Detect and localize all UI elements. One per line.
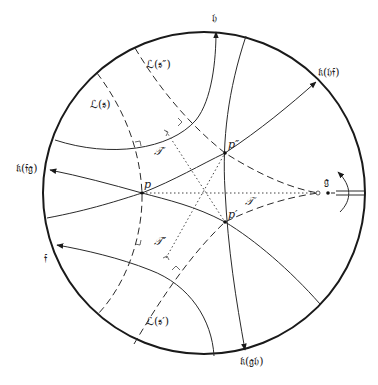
geodesic-k-fg xyxy=(50,170,320,304)
dotted-T2 xyxy=(166,153,225,258)
label-p: p xyxy=(144,178,151,191)
geodesic-k-hf xyxy=(47,82,316,218)
label-p2: p″ xyxy=(228,138,240,151)
label-g: 𝔤 xyxy=(324,175,329,188)
point-open xyxy=(316,191,320,195)
point-p xyxy=(140,191,144,195)
point-p2 xyxy=(223,151,227,155)
point-g xyxy=(326,191,330,195)
label-k-fg: 𝔨(𝔣𝔤) xyxy=(16,162,38,175)
right-angle-marker xyxy=(172,266,180,270)
hyperbolic-disk-figure: 𝔥 𝔨(𝔥𝔣) 𝔨(𝔣𝔤) 𝔣 𝔨(𝔤𝔥) 𝔤 ℒ(𝔰) ℒ(𝔰″) ℒ(𝔰′)… xyxy=(0,0,378,385)
label-T1: 𝒯′ xyxy=(154,145,166,158)
label-T: 𝒯 xyxy=(245,195,257,208)
rotation-arrow-icon xyxy=(338,172,349,212)
label-L-s: ℒ(𝔰) xyxy=(90,98,111,111)
label-h: 𝔥 xyxy=(212,12,217,25)
point-p1 xyxy=(223,220,227,224)
label-k-gh: 𝔨(𝔤𝔥) xyxy=(240,355,264,368)
right-angle-marker xyxy=(164,130,168,136)
label-k-hf: 𝔨(𝔥𝔣) xyxy=(318,66,340,79)
label-T2: 𝒯″ xyxy=(154,235,167,248)
right-angle-marker xyxy=(178,118,182,126)
right-angle-marker xyxy=(135,141,141,146)
label-p1: p′ xyxy=(228,208,238,221)
label-L-s2: ℒ(𝔰″) xyxy=(146,58,171,71)
label-f: 𝔣 xyxy=(44,252,48,265)
label-L-s1: ℒ(𝔰′) xyxy=(146,315,169,328)
